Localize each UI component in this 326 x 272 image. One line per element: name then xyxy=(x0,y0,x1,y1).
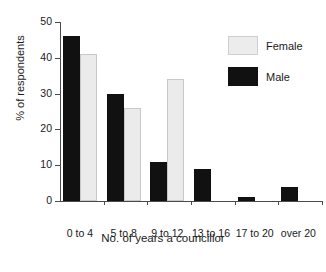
legend-label-female: Female xyxy=(266,40,303,52)
x-tick xyxy=(278,201,279,205)
bar-female xyxy=(167,79,184,201)
y-tick: 10 xyxy=(55,165,60,166)
legend-swatch-male-icon xyxy=(228,67,258,86)
y-axis-title: % of respondents xyxy=(14,0,26,158)
y-tick-label: 50 xyxy=(40,15,52,27)
y-tick-label: 20 xyxy=(40,122,52,134)
y-tick: 30 xyxy=(55,94,60,95)
y-tick: 40 xyxy=(55,58,60,59)
bar-male xyxy=(238,197,255,201)
legend-label-male: Male xyxy=(266,71,290,83)
y-tick-label: 10 xyxy=(40,158,52,170)
y-tick: 50 xyxy=(55,22,60,23)
x-tick xyxy=(191,201,192,205)
legend-item-female: Female xyxy=(228,36,303,55)
bar-female xyxy=(80,54,97,201)
bar-male xyxy=(107,94,124,201)
bar-male xyxy=(63,36,80,201)
chart-legend: Female Male xyxy=(228,36,303,98)
y-tick-label: 0 xyxy=(46,194,52,206)
y-tick: 20 xyxy=(55,129,60,130)
legend-item-male: Male xyxy=(228,67,303,86)
bar-male xyxy=(194,169,211,201)
y-axis-line xyxy=(60,22,61,201)
y-tick-label: 30 xyxy=(40,87,52,99)
x-tick xyxy=(235,201,236,205)
x-tick xyxy=(104,201,105,205)
y-tick-label: 40 xyxy=(40,51,52,63)
x-axis-title: No. of years a councillor xyxy=(0,232,326,244)
bar-female xyxy=(124,108,141,201)
legend-swatch-female-icon xyxy=(228,36,258,55)
y-tick: 0 xyxy=(55,201,60,202)
bar-male xyxy=(281,187,298,201)
x-tick xyxy=(322,201,323,205)
x-tick xyxy=(147,201,148,205)
bar-male xyxy=(150,162,167,201)
bar-chart: % of respondents 01020304050 0 to 45 to … xyxy=(0,0,326,272)
